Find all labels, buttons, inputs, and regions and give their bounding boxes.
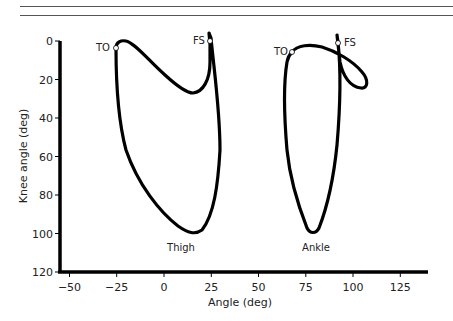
svg-text:125: 125	[390, 281, 411, 294]
ankle-to-label: TO	[273, 46, 288, 57]
ankle-label: Ankle	[302, 242, 330, 253]
thigh-to-label: TO	[95, 42, 110, 53]
x-tick-labels: −50 −25 0 25 50 75 100 125	[58, 281, 411, 294]
y-axis-label: Knee angle (deg)	[17, 109, 30, 204]
svg-text:−25: −25	[105, 281, 128, 294]
svg-text:60: 60	[39, 151, 53, 164]
x-axis-label: Angle (deg)	[208, 296, 272, 309]
y-tick-labels: 0 20 40 60 80 100 120	[32, 35, 53, 279]
svg-text:0: 0	[46, 35, 53, 48]
axes	[58, 41, 428, 273]
svg-text:−50: −50	[58, 281, 81, 294]
svg-text:40: 40	[39, 112, 53, 125]
svg-text:75: 75	[299, 281, 313, 294]
ankle-fs-label: FS	[344, 37, 356, 48]
thigh-fs-marker	[208, 39, 213, 44]
svg-text:25: 25	[204, 281, 218, 294]
ankle-to-marker	[290, 50, 295, 55]
svg-text:50: 50	[252, 281, 266, 294]
thigh-label: Thigh	[166, 242, 195, 253]
svg-text:0: 0	[161, 281, 168, 294]
ankle-loop	[285, 35, 367, 233]
thigh-fs-label: FS	[193, 35, 205, 46]
chart-svg: 0 20 40 60 80 100 120 −50 −25 0 25 50 75…	[0, 0, 453, 321]
ankle-fs-marker	[336, 41, 341, 46]
svg-text:120: 120	[32, 266, 53, 279]
svg-text:100: 100	[343, 281, 364, 294]
thigh-to-marker	[114, 46, 119, 51]
thigh-loop	[116, 33, 220, 233]
svg-text:80: 80	[39, 189, 53, 202]
svg-text:100: 100	[32, 228, 53, 241]
svg-text:20: 20	[39, 74, 53, 87]
